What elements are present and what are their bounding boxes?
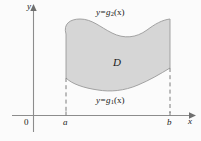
x-tick-label-a: a bbox=[63, 118, 68, 127]
lower-label-function: g bbox=[106, 95, 111, 105]
region-label-d: D bbox=[113, 57, 121, 68]
upper-label-function: g bbox=[106, 7, 111, 17]
lower-curve-label: y=g1(x) bbox=[96, 96, 125, 106]
origin-label: 0 bbox=[24, 118, 29, 127]
upper-curve-label: y=g2(x) bbox=[96, 8, 125, 18]
x-tick-label-b: b bbox=[167, 118, 172, 127]
y-axis-label: y bbox=[27, 2, 31, 11]
type-i-region-figure: y=g2(x) y=g1(x) D 0 a b x y bbox=[0, 0, 201, 141]
region-d-shape bbox=[65, 19, 170, 91]
y-axis-arrowhead bbox=[30, 4, 36, 11]
upper-label-argument: (x) bbox=[114, 7, 125, 17]
x-axis-label: x bbox=[188, 117, 192, 126]
lower-label-argument: (x) bbox=[114, 95, 125, 105]
